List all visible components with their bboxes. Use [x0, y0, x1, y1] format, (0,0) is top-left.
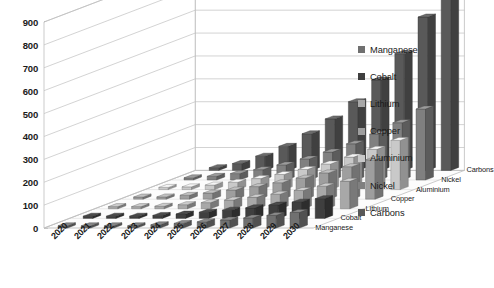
legend-item[interactable]: Nickel: [358, 172, 447, 199]
legend-swatch-icon: [358, 209, 365, 216]
y-axis: 9008007006005004003002001000: [0, 0, 44, 288]
legend-item[interactable]: Carbons: [358, 199, 447, 226]
legend-label: Carbons: [370, 208, 404, 218]
legend-item[interactable]: Manganese: [358, 36, 447, 63]
legend-swatch-icon: [358, 100, 365, 107]
bar-column: [340, 178, 358, 208]
chart-legend: ManganeseCobaltLithiumCopperAluminiumNic…: [358, 36, 447, 226]
y-axis-tick-label: 300: [0, 154, 38, 165]
legend-item[interactable]: Copper: [358, 118, 447, 145]
legend-label: Nickel: [370, 181, 395, 191]
legend-swatch-icon: [358, 73, 365, 80]
plot-area: 2020202120222023202420252026202720282029…: [44, 0, 334, 288]
depth-axis-label: Manganese: [315, 223, 353, 232]
legend-item[interactable]: Lithium: [358, 90, 447, 117]
y-axis-tick-label: 500: [0, 108, 38, 119]
legend-label: Lithium: [370, 99, 399, 109]
legend-item[interactable]: Cobalt: [358, 63, 447, 90]
legend-label: Manganese: [370, 45, 418, 55]
legend-label: Cobalt: [370, 72, 396, 82]
legend-item[interactable]: Aluminium: [358, 145, 447, 172]
bar-column: [315, 196, 333, 219]
legend-swatch-icon: [358, 46, 365, 53]
legend-swatch-icon: [358, 155, 365, 162]
y-axis-tick-label: 600: [0, 85, 38, 96]
legend-label: Copper: [370, 126, 400, 136]
legend-swatch-icon: [358, 128, 365, 135]
y-axis-tick-label: 200: [0, 177, 38, 188]
y-axis-tick-label: 400: [0, 131, 38, 142]
depth-axis-label: Carbons: [466, 165, 493, 174]
legend-swatch-icon: [358, 182, 365, 189]
y-axis-tick-label: 800: [0, 39, 38, 50]
y-axis-tick-label: 900: [0, 17, 38, 28]
y-axis-tick-label: 100: [0, 200, 38, 211]
legend-label: Aluminium: [370, 153, 413, 163]
y-axis-tick-label: 700: [0, 62, 38, 73]
y-axis-tick-label: 0: [0, 223, 38, 234]
